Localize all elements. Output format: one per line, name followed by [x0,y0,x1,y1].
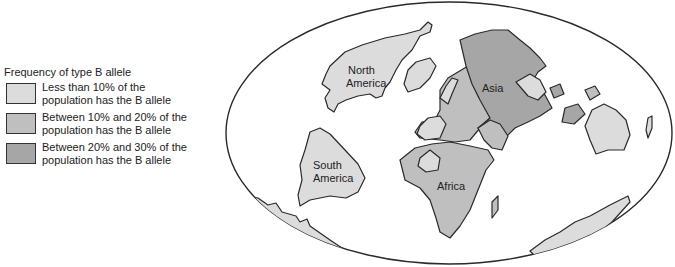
world-map: North America South America Africa Asia [0,0,675,267]
label-asia: Asia [482,82,504,94]
label-north-america: North [348,64,375,76]
label-north-america: America [346,77,387,89]
label-africa: Africa [437,180,466,192]
label-south-america: America [313,172,354,184]
label-south-america: South [313,159,342,171]
